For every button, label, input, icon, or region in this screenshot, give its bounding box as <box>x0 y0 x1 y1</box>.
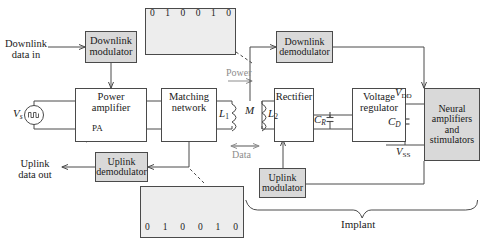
downlink-modulator-line2: modulator <box>89 47 132 58</box>
neural-line2: amplifiers <box>432 114 473 124</box>
downlink-bit-1: 1 <box>165 8 170 18</box>
neural-line4: stimulators <box>430 135 474 145</box>
uplink-data-out-line1: Uplink <box>8 158 62 169</box>
coil-primary-subscript: 1 <box>225 112 229 121</box>
downlink-demodulator-line2: demodulator <box>279 47 330 57</box>
vss-subscript: SS <box>402 151 410 159</box>
power-flow-label: Power <box>226 68 252 79</box>
downlink-bit-0: 0 <box>150 8 155 18</box>
block-matching-network[interactable]: Matching network <box>161 88 217 142</box>
vdd-label: VDD <box>395 87 412 100</box>
uplink-data-out-line2: data out <box>8 169 62 180</box>
downlink-bit-2: 0 <box>181 8 186 18</box>
coil-secondary-subscript: 2 <box>274 112 278 121</box>
data-flow-label: Data <box>232 150 251 161</box>
block-power-amplifier[interactable]: Power amplifier <box>75 88 147 142</box>
block-neural-amplifiers-stimulators[interactable]: Neural amplifiers and stimulators <box>424 88 480 161</box>
diagram-canvas: Downlink modulator Power amplifier PA Ma… <box>0 0 482 245</box>
uplink-bit-0: 0 <box>145 222 150 232</box>
downlink-data-in-line2: data in <box>4 49 48 60</box>
uplink-data-out-label: Uplink data out <box>8 158 62 180</box>
vss-label: VSS <box>396 146 410 159</box>
coil-secondary-label: L2 <box>268 108 278 120</box>
implant-label: Implant <box>341 219 375 231</box>
downlink-data-in-label: Downlink data in <box>4 38 48 60</box>
rectifier-label: Rectifier <box>276 92 313 103</box>
vdd-subscript: DD <box>401 92 411 100</box>
uplink-demodulator-line2: demodulator <box>96 167 147 177</box>
block-downlink-modulator[interactable]: Downlink modulator <box>85 31 137 63</box>
block-uplink-modulator[interactable]: Uplink modulator <box>259 168 306 198</box>
uplink-bit-1: 1 <box>163 222 168 232</box>
downlink-bit-3: 0 <box>196 8 201 18</box>
downlink-bit-5: 0 <box>226 8 231 18</box>
rectifier-capacitor-label: CR <box>314 114 326 126</box>
source-symbol: V <box>13 107 20 119</box>
source-label: Vs <box>13 108 23 120</box>
cap-rect-subscript: R <box>321 118 326 127</box>
matching-network-line2: network <box>172 103 206 114</box>
downlink-data-in-line1: Downlink <box>4 38 48 49</box>
uplink-bit-3: 0 <box>198 222 203 232</box>
uplink-bit-4: 1 <box>216 222 221 232</box>
block-uplink-demodulator[interactable]: Uplink demodulator <box>95 152 148 182</box>
block-downlink-demodulator[interactable]: Downlink demodulator <box>276 31 333 63</box>
cap-decouple-subscript: D <box>395 120 400 129</box>
source-subscript: s <box>20 112 23 121</box>
downlink-bit-4: 1 <box>211 8 216 18</box>
voltage-regulator-line2: regulator <box>360 103 398 114</box>
pa-symbol-label: PA <box>92 124 103 133</box>
power-amplifier-line2: amplifier <box>92 103 130 114</box>
uplink-waveform-bits: 0 1 0 0 1 0 <box>145 222 238 232</box>
block-rectifier[interactable]: Rectifier <box>274 88 314 142</box>
uplink-bit-2: 0 <box>180 222 185 232</box>
uplink-modulator-line2: modulator <box>262 183 303 193</box>
downlink-waveform-bits: 0 1 0 0 1 0 <box>150 8 231 18</box>
decoupling-capacitor-label: CD <box>388 116 401 128</box>
coil-primary-label: L1 <box>219 108 229 120</box>
uplink-bit-5: 0 <box>233 222 238 232</box>
mutual-inductance-label: M <box>245 105 254 117</box>
